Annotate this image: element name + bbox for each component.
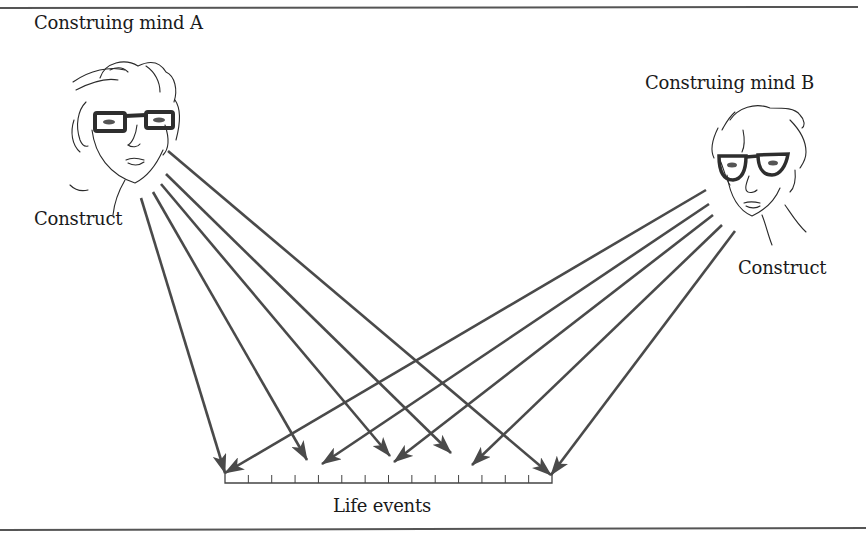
face-a-sketch-icon (70, 62, 180, 215)
arrow-from-mind-a (166, 174, 451, 453)
arrow-from-mind-b (472, 225, 722, 465)
mind-a-title: Construing mind A (34, 12, 203, 33)
arrow-from-mind-b (394, 215, 713, 462)
life-events-axis (225, 473, 552, 483)
eyes-b-icon (727, 161, 778, 168)
construct-arrows (141, 151, 735, 475)
face-b-sketch-icon (712, 106, 806, 245)
arrow-from-mind-a (161, 184, 390, 456)
arrow-from-mind-a (141, 198, 225, 473)
arrow-from-mind-a (168, 151, 551, 475)
top-rule (0, 7, 858, 8)
bottom-rule (0, 528, 866, 530)
mind-b-construct-label: Construct (738, 257, 826, 278)
axis-label: Life events (333, 495, 431, 516)
arrow-from-mind-b (225, 190, 706, 473)
mind-b-title: Construing mind B (645, 72, 814, 93)
arrow-from-mind-a (153, 192, 307, 460)
mind-a-construct-label: Construct (34, 208, 122, 229)
eyes-a-icon (103, 118, 165, 125)
